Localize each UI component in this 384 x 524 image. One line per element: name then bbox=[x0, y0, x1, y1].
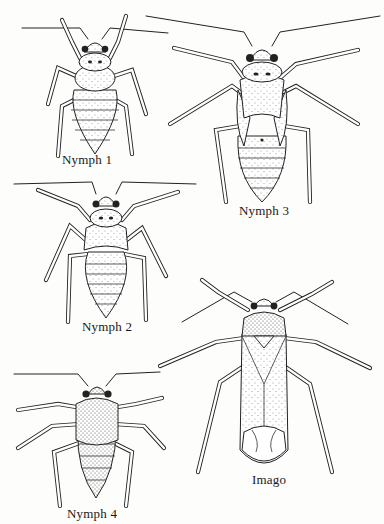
nymph-3-label: Nymph 3 bbox=[239, 203, 289, 219]
nymph-3-figure bbox=[140, 6, 384, 210]
nymph-2-label: Nymph 2 bbox=[82, 319, 132, 335]
illustration-plate: Nymph 1 Nymph 2 bbox=[0, 0, 384, 524]
imago-label: Imago bbox=[252, 472, 286, 488]
nymph-1-label: Nymph 1 bbox=[62, 152, 112, 168]
imago-figure bbox=[152, 262, 384, 472]
imago-drawing bbox=[152, 262, 384, 472]
nymph-3-drawing bbox=[140, 6, 384, 210]
nymph-4-label: Nymph 4 bbox=[67, 506, 117, 522]
